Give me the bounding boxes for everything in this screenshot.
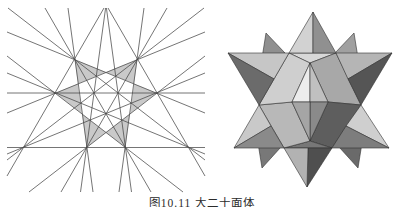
polyhedron-render <box>228 12 392 187</box>
book-page: 图10.11 大二十面体 <box>0 0 404 207</box>
facet <box>307 148 332 187</box>
figure-caption: 图10.11 大二十面体 <box>0 194 404 207</box>
facet <box>289 12 313 53</box>
facet <box>313 12 336 53</box>
facet <box>284 148 308 187</box>
stellation-line <box>7 8 204 160</box>
stellation-diagram <box>7 8 205 192</box>
figure-canvas <box>0 0 404 207</box>
stellation-line <box>8 8 205 160</box>
